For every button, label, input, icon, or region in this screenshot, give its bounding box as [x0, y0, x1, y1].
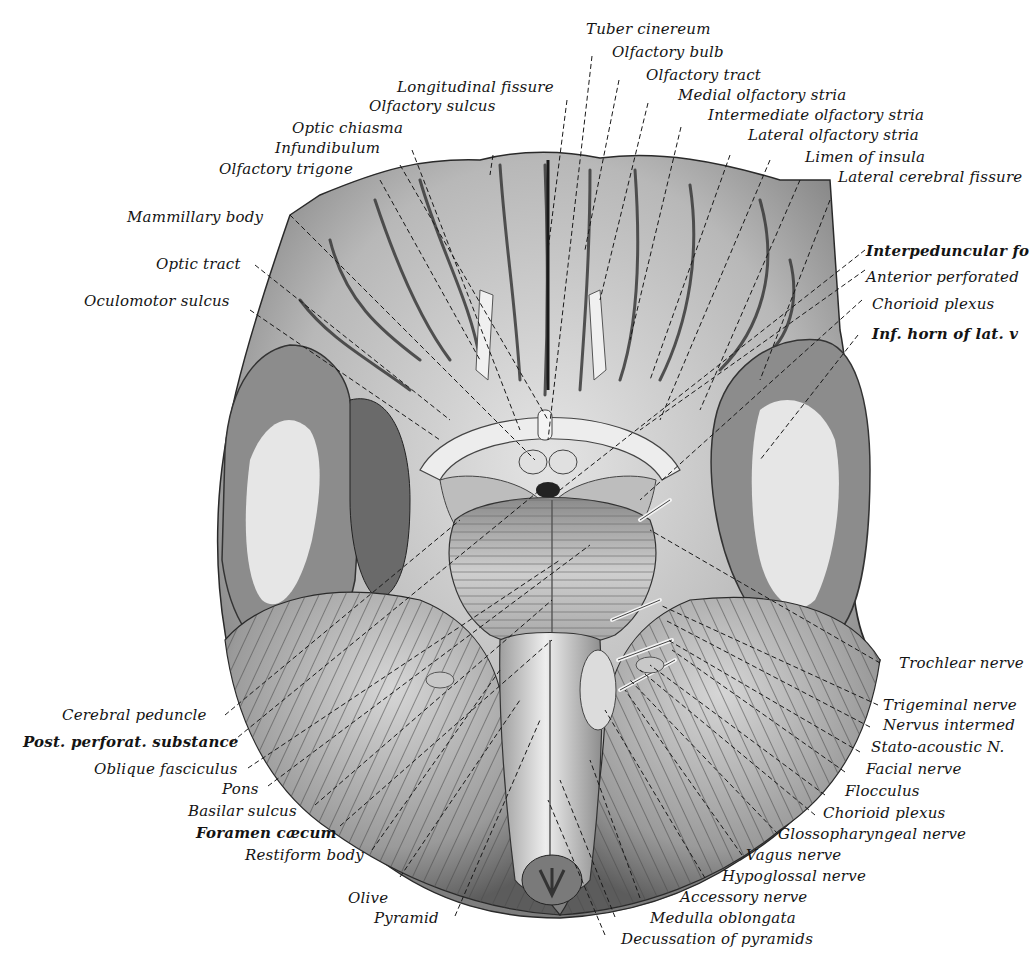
label-flocculus: Flocculus	[845, 784, 920, 799]
label-restiform-body: Restiform body	[245, 848, 364, 863]
label-olfactory-tract: Olfactory tract	[646, 68, 761, 83]
label-pyramid: Pyramid	[374, 911, 439, 926]
label-trigeminal-nerve: Trigeminal nerve	[883, 698, 1017, 713]
label-olfactory-bulb: Olfactory bulb	[612, 45, 724, 60]
label-chorioid-plexus-lower: Chorioid plexus	[823, 806, 945, 821]
label-optic-tract: Optic tract	[156, 257, 241, 272]
label-decussation-of-pyramids: Decussation of pyramids	[621, 932, 813, 947]
label-olfactory-trigone: Olfactory trigone	[219, 162, 353, 177]
label-optic-chiasma: Optic chiasma	[292, 121, 403, 136]
label-chorioid-plexus-upper: Chorioid plexus	[872, 297, 994, 312]
anatomy-figure: Tuber cinereum Olfactory bulb Olfactory …	[0, 0, 1030, 969]
label-cerebral-peduncle: Cerebral peduncle	[62, 708, 207, 723]
label-anterior-perforated: Anterior perforated	[866, 270, 1019, 285]
label-hypoglossal-nerve: Hypoglossal nerve	[722, 869, 866, 884]
label-facial-nerve: Facial nerve	[866, 762, 962, 777]
label-trochlear-nerve: Trochlear nerve	[899, 656, 1024, 671]
label-infundibulum: Infundibulum	[275, 141, 380, 156]
label-glossopharyngeal-nerve: Glossopharyngeal nerve	[778, 827, 966, 842]
label-foramen-caecum: Foramen cæcum	[196, 826, 337, 841]
label-basilar-sulcus: Basilar sulcus	[188, 804, 297, 819]
label-olive: Olive	[348, 891, 388, 906]
label-pons: Pons	[222, 782, 259, 797]
label-post-perforat-substance: Post. perforat. substance	[23, 735, 239, 750]
label-mammillary-body: Mammillary body	[127, 210, 263, 225]
label-nervus-intermedius: Nervus intermed	[883, 718, 1015, 733]
label-longitudinal-fissure: Longitudinal fissure	[397, 80, 554, 95]
label-lateral-cerebral-fissure: Lateral cerebral fissure	[838, 170, 1022, 185]
label-intermediate-olfactory-stria: Intermediate olfactory stria	[708, 108, 924, 123]
label-oculomotor-sulcus: Oculomotor sulcus	[84, 294, 230, 309]
label-medial-olfactory-stria: Medial olfactory stria	[678, 88, 846, 103]
label-lateral-olfactory-stria: Lateral olfactory stria	[748, 128, 919, 143]
label-limen-of-insula: Limen of insula	[805, 150, 925, 165]
label-tuber-cinereum: Tuber cinereum	[586, 22, 711, 37]
brain-base-illustration	[0, 0, 1030, 969]
label-oblique-fasciculus: Oblique fasciculus	[94, 762, 238, 777]
label-accessory-nerve: Accessory nerve	[680, 890, 807, 905]
label-olfactory-sulcus: Olfactory sulcus	[369, 99, 496, 114]
label-medulla-oblongata: Medulla oblongata	[650, 911, 796, 926]
label-stato-acoustic-nerve: Stato-acoustic N.	[871, 740, 1004, 755]
label-inf-horn-of-lat-ventricle: Inf. horn of lat. v	[872, 327, 1018, 342]
label-interpeduncular-fossa: Interpeduncular fo	[866, 244, 1029, 259]
label-vagus-nerve: Vagus nerve	[746, 848, 841, 863]
